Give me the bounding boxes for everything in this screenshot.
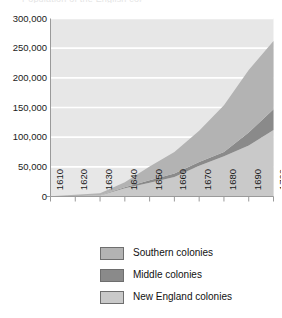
legend-swatch-icon bbox=[100, 269, 124, 282]
x-axis-label-1690: 1690 bbox=[253, 169, 263, 203]
y-axis-label-0: 0 bbox=[0, 192, 47, 202]
x-axis-label-1680: 1680 bbox=[228, 169, 238, 203]
chart-legend: Southern coloniesMiddle coloniesNew Engl… bbox=[100, 245, 280, 311]
legend-item-middle-colonies: Middle colonies bbox=[100, 267, 280, 283]
y-axis-label-300000: 300,000 bbox=[0, 14, 47, 24]
x-axis-label-1700: 1700 bbox=[278, 169, 282, 203]
chart-figure: Population of the English colonies 300,0… bbox=[0, 0, 281, 318]
legend-swatch-icon bbox=[100, 291, 124, 304]
legend-item-label: New England colonies bbox=[133, 292, 232, 302]
x-axis-label-1650: 1650 bbox=[154, 169, 164, 203]
stacked-area-chart bbox=[0, 0, 281, 240]
x-axis-label-1610: 1610 bbox=[55, 169, 65, 203]
y-axis-label-100000: 100,000 bbox=[0, 132, 47, 142]
legend-swatch-icon bbox=[100, 247, 124, 260]
y-axis-label-150000: 150,000 bbox=[0, 103, 47, 113]
x-axis-label-1660: 1660 bbox=[178, 169, 188, 203]
x-axis-label-1670: 1670 bbox=[203, 169, 213, 203]
x-axis-label-1640: 1640 bbox=[129, 169, 139, 203]
legend-item-label: Middle colonies bbox=[133, 270, 202, 280]
legend-item-label: Southern colonies bbox=[133, 248, 213, 258]
y-axis-label-50000: 50,000 bbox=[0, 162, 47, 172]
legend-item-new-england-colonies: New England colonies bbox=[100, 289, 280, 305]
y-axis-label-250000: 250,000 bbox=[0, 43, 47, 53]
y-axis-label-200000: 200,000 bbox=[0, 73, 47, 83]
x-axis-label-1630: 1630 bbox=[104, 169, 114, 203]
legend-item-southern-colonies: Southern colonies bbox=[100, 245, 280, 261]
x-axis-label-1620: 1620 bbox=[79, 169, 89, 203]
